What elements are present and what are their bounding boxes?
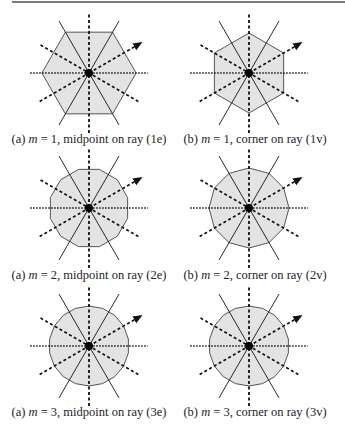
panel-2v <box>190 148 308 268</box>
center-point <box>245 69 253 77</box>
center-point <box>245 342 253 350</box>
caption-1e: (a) m = 1, midpoint on ray (1e) <box>4 132 174 147</box>
center-point <box>85 69 93 77</box>
caption-3v: (b) m = 3, corner on ray (3v) <box>170 405 340 420</box>
polygon-ray-figure <box>0 0 345 430</box>
panel-1e <box>30 13 148 133</box>
caption-1v: (b) m = 1, corner on ray (1v) <box>170 132 340 147</box>
panel-1v <box>190 13 308 133</box>
caption-3e: (a) m = 3, midpoint on ray (3e) <box>4 405 174 420</box>
center-point <box>85 204 93 212</box>
panel-3e <box>30 286 148 406</box>
panel-2e <box>30 148 148 268</box>
center-point <box>85 342 93 350</box>
panel-3v <box>190 286 308 406</box>
caption-2v: (b) m = 2, corner on ray (2v) <box>170 268 340 283</box>
center-point <box>245 204 253 212</box>
caption-2e: (a) m = 2, midpoint on ray (2e) <box>4 268 174 283</box>
